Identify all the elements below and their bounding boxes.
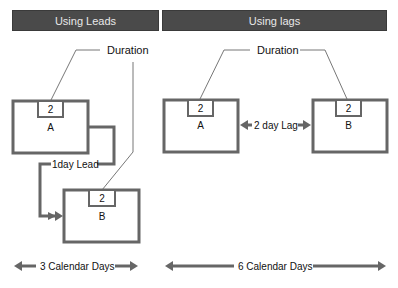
- leads-task-b-name: B: [99, 211, 106, 222]
- leads-task-b-duration: 2: [99, 193, 105, 204]
- lags-task-a-duration: 2: [198, 103, 204, 114]
- leads-duration-label: Duration: [107, 44, 149, 56]
- lags-task-a: 2 A: [164, 100, 238, 152]
- leads-task-b: 2 B: [64, 190, 139, 242]
- lags-span-label: 6 Calendar Days: [238, 261, 312, 272]
- leads-task-a-name: A: [47, 122, 54, 133]
- lags-task-b: 2 B: [313, 100, 387, 152]
- lead-arrowhead-icon: [55, 211, 63, 221]
- leads-task-a: 2 A: [13, 101, 88, 153]
- lead-label: 1day Lead: [52, 159, 99, 170]
- lags-task-a-name: A: [197, 120, 204, 131]
- lags-duration-callout: [200, 50, 347, 99]
- lags-task-b-duration: 2: [346, 103, 352, 114]
- leads-span-label: 3 Calendar Days: [40, 261, 114, 272]
- leads-task-a-duration: 2: [48, 104, 54, 115]
- lags-task-b-name: B: [345, 120, 352, 131]
- lags-duration-label: Duration: [257, 44, 299, 56]
- diagram-canvas: Duration 2 A 2 B 1day Lead 3 Calendar Da…: [0, 0, 398, 288]
- lag-label: 2 day Lag: [254, 120, 298, 131]
